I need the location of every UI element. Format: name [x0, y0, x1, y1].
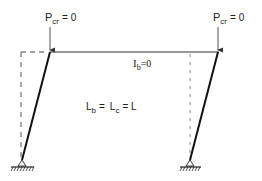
length-label: Lb=Lc= L [86, 101, 137, 115]
load-label-left: Pcr= 0 [45, 11, 77, 26]
pinned-support-right-icon [180, 160, 201, 171]
load-label-right: Pcr= 0 [213, 11, 245, 26]
pinned-support-left-icon [11, 160, 34, 171]
left-column [22, 52, 50, 160]
right-column [190, 52, 218, 160]
original-position-left [21, 52, 48, 158]
beam-stiffness-label: Ib=0 [133, 57, 151, 72]
frame-diagram: Pcr= 0 Pcr= 0 Ib=0 Lb=Lc= L [0, 0, 262, 181]
